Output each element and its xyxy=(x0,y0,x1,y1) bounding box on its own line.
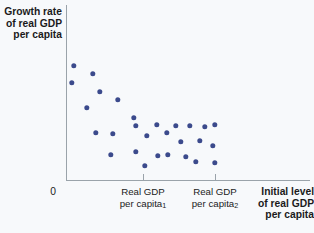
scatter-point xyxy=(90,71,95,76)
scatter-point xyxy=(193,159,198,164)
x-axis-title: Initial level of real GDP per capita xyxy=(243,186,314,221)
scatter-point xyxy=(155,153,160,158)
scatter-point xyxy=(210,143,215,148)
x-tick-label-1-line1: Real GDP xyxy=(121,186,165,197)
scatter-point xyxy=(202,124,207,129)
scatter-point xyxy=(142,163,147,168)
scatter-point xyxy=(93,130,98,135)
y-axis-line xyxy=(66,5,67,181)
x-tick-label-1-subscript: 1 xyxy=(162,201,166,210)
scatter-point xyxy=(154,122,159,127)
scatter-point xyxy=(212,122,217,127)
scatter-point xyxy=(84,105,89,110)
x-axis-tick-2 xyxy=(215,174,216,181)
scatter-point xyxy=(187,123,192,128)
scatter-point xyxy=(173,123,178,128)
x-tick-label-2-subscript: 2 xyxy=(234,201,238,210)
convergence-scatter-figure: Growth rate of real GDP per capita 0 Rea… xyxy=(0,0,314,233)
scatter-point xyxy=(108,152,113,157)
x-tick-label-2-line1: Real GDP xyxy=(193,186,237,197)
scatter-point xyxy=(110,131,115,136)
x-tick-label-2-line2: per capita xyxy=(192,198,235,209)
scatter-point xyxy=(131,115,136,120)
scatter-point xyxy=(212,160,217,165)
origin-label: 0 xyxy=(40,186,56,198)
scatter-point xyxy=(183,154,188,159)
scatter-point xyxy=(144,133,149,138)
x-tick-label-1-line2: per capita xyxy=(120,198,163,209)
y-axis-title: Growth rate of real GDP per capita xyxy=(0,6,62,41)
scatter-point xyxy=(178,139,183,144)
x-tick-label-2: Real GDPper capita2 xyxy=(177,186,253,210)
x-axis-tick-1 xyxy=(143,174,144,181)
scatter-point xyxy=(115,97,120,102)
scatter-point xyxy=(97,89,102,94)
scatter-point xyxy=(197,138,202,143)
x-axis-line xyxy=(66,180,310,181)
scatter-point xyxy=(165,152,170,157)
scatter-point xyxy=(133,149,138,154)
scatter-point xyxy=(164,130,169,135)
scatter-point xyxy=(71,63,76,68)
scatter-point xyxy=(69,80,74,85)
x-tick-label-1: Real GDPper capita1 xyxy=(105,186,181,210)
scatter-point xyxy=(133,123,138,128)
